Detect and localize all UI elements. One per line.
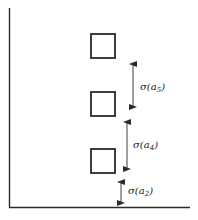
- box-middle: [91, 92, 115, 116]
- box-top: [91, 34, 115, 58]
- spacing-diagram: σ(a5) σ(a4) σ(a2): [0, 0, 198, 220]
- label-sigma-a2: σ(a2): [128, 185, 153, 198]
- label-sigma-a4: σ(a4): [133, 139, 158, 152]
- box-bottom: [91, 149, 115, 173]
- label-sigma-a5: σ(a5): [140, 81, 165, 94]
